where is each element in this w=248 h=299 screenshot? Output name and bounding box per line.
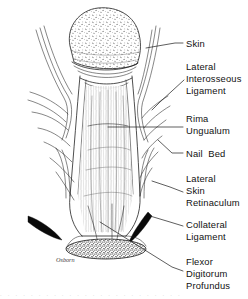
left-fibre-bundles xyxy=(28,26,74,200)
figure-canvas: Osborn Skin Lateral Interosseous Ligamen… xyxy=(0,0,248,299)
label-skin-line-1: Skin xyxy=(186,38,205,49)
label-nail-bed-line-1: Nail Bed xyxy=(186,148,225,159)
label-lateral-skin-retinaculum-line-1: Lateral xyxy=(186,173,216,184)
digit-drawing: Osborn xyxy=(28,8,170,263)
label-nail-bed: Nail Bed xyxy=(186,148,225,159)
label-lateral-interosseous-ligament: Lateral Interosseous Ligament xyxy=(186,61,242,96)
leader-skin xyxy=(146,43,183,48)
label-rima-ungualum-line-1: Rima xyxy=(186,113,209,124)
label-lateral-interosseous-ligament-line-2: Interosseous xyxy=(186,73,242,84)
leader-nail-bed xyxy=(158,140,183,153)
papillated-dome xyxy=(69,8,140,69)
leader-lateral-skin-retinaculum xyxy=(152,181,183,192)
right-fibre-bundles xyxy=(137,26,170,198)
cut-surface-base xyxy=(66,236,146,259)
label-collateral-ligament-line-2: Ligament xyxy=(186,231,226,242)
label-lateral-skin-retinaculum-line-2: Skin xyxy=(186,185,205,196)
label-collateral-ligament: Collateral Ligament xyxy=(186,219,227,242)
label-flexor-digitorum-profundus-line-1: Flexor xyxy=(186,256,213,267)
label-lateral-skin-retinaculum: Lateral Skin Retinaculum xyxy=(186,173,240,208)
label-flexor-digitorum-profundus-line-2: Digitorum xyxy=(186,268,228,279)
label-flexor-digitorum-profundus: Flexor Digitorum Profundus xyxy=(186,256,230,291)
label-skin: Skin xyxy=(186,38,205,49)
label-lateral-interosseous-ligament-line-3: Ligament xyxy=(186,85,226,96)
label-collateral-ligament-line-1: Collateral xyxy=(186,219,227,230)
label-lateral-skin-retinaculum-line-3: Retinaculum xyxy=(186,197,240,208)
anatomical-figure: Osborn Skin Lateral Interosseous Ligamen… xyxy=(0,0,248,299)
label-rima-ungualum: Rima Ungualum xyxy=(186,113,230,136)
clipped-caption-strip: . . . . . . . . . . . . . . . . . . . . … xyxy=(0,291,248,299)
label-flexor-digitorum-profundus-line-3: Profundus xyxy=(186,280,230,291)
artist-signature: Osborn xyxy=(56,256,75,263)
label-rima-ungualum-line-2: Ungualum xyxy=(186,125,230,136)
label-lateral-interosseous-ligament-line-1: Lateral xyxy=(186,61,216,72)
trunk-body xyxy=(78,86,133,232)
label-column: Skin Lateral Interosseous Ligament Rima … xyxy=(186,38,242,291)
leader-collateral-ligament xyxy=(150,216,183,226)
leader-lateral-interosseous-ligament xyxy=(152,80,184,110)
